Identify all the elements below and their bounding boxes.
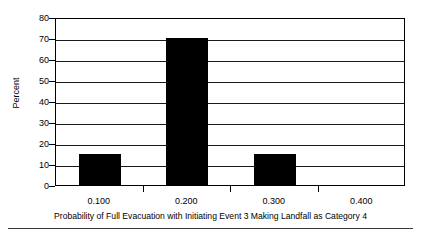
y-tick-mark — [49, 165, 55, 166]
y-tick-label: 70 — [23, 35, 49, 44]
gridline — [56, 40, 404, 41]
x-tick-label: 0.400 — [321, 196, 401, 206]
y-tick-label: 40 — [23, 98, 49, 107]
y-tick-label: 20 — [23, 140, 49, 149]
gridline — [56, 82, 404, 83]
y-tick-label: 30 — [23, 119, 49, 128]
chart-figure: Percent 01020304050607080 Probability of… — [0, 0, 421, 232]
plot-area — [55, 18, 405, 186]
x-tick-mark — [143, 186, 144, 192]
y-tick-mark — [49, 102, 55, 103]
gridline — [56, 61, 404, 62]
y-tick-label: 80 — [23, 14, 49, 23]
x-tick-label: 0.300 — [234, 196, 314, 206]
bar — [254, 154, 296, 186]
y-tick-mark — [49, 144, 55, 145]
y-tick-label: 60 — [23, 56, 49, 65]
bottom-rule — [8, 228, 413, 229]
y-tick-mark — [49, 39, 55, 40]
y-tick-label: 10 — [23, 161, 49, 170]
y-tick-label: 50 — [23, 77, 49, 86]
gridline — [56, 103, 404, 104]
x-axis-title: Probability of Full Evacuation with Init… — [0, 211, 421, 221]
bar — [79, 154, 121, 186]
x-tick-mark — [318, 186, 319, 192]
x-tick-label: 0.100 — [59, 196, 139, 206]
y-tick-mark — [49, 186, 55, 187]
gridline — [56, 145, 404, 146]
y-tick-mark — [49, 81, 55, 82]
y-tick-label: 0 — [23, 182, 49, 191]
y-tick-mark — [49, 18, 55, 19]
x-tick-label: 0.200 — [146, 196, 226, 206]
bar — [166, 38, 208, 185]
y-tick-mark — [49, 123, 55, 124]
y-tick-mark — [49, 60, 55, 61]
gridline — [56, 124, 404, 125]
y-axis-ticks: 01020304050607080 — [19, 0, 49, 232]
x-tick-mark — [230, 186, 231, 192]
